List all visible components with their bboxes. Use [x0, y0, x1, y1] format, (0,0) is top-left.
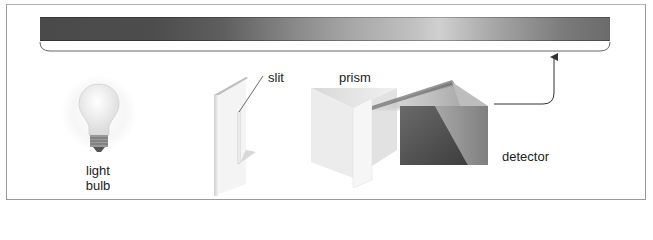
detector-label: detector — [502, 149, 549, 164]
light-bulb-icon — [61, 75, 137, 152]
light-bulb-label-line1: light — [78, 163, 118, 178]
light-bulb-label-line2: bulb — [78, 178, 118, 193]
slit-icon — [214, 76, 263, 196]
prism-label: prism — [339, 70, 371, 85]
slit-label: slit — [268, 70, 284, 85]
spectrum-brace — [40, 42, 610, 51]
arrow-detector-to-spectrum — [494, 57, 554, 104]
light-bulb-label: light bulb — [78, 163, 118, 193]
